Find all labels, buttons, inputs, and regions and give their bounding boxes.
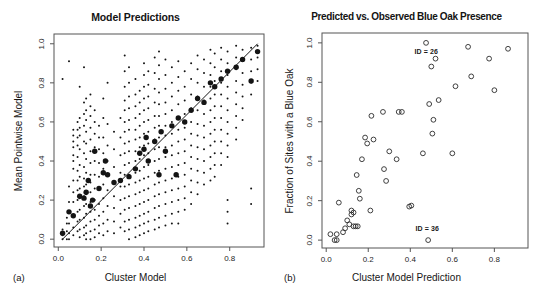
- panel-a-point-small: [143, 189, 145, 191]
- panel-a-point-small: [171, 133, 173, 135]
- panel-a-point-small: [197, 193, 199, 195]
- panel-a-point-small: [119, 199, 121, 201]
- panel-a-point-small: [227, 109, 229, 111]
- panel-a-point-small: [197, 158, 199, 160]
- panel-a-point-small: [164, 88, 166, 90]
- panel-a-letter: (a): [13, 272, 25, 283]
- panel-a-point-small: [113, 232, 115, 234]
- panel-b-point: [343, 226, 348, 231]
- panel-a-point-small: [197, 123, 199, 125]
- panel-a-xtick-label: 0.6: [181, 254, 192, 263]
- panel-a-point-small: [235, 56, 237, 58]
- panel-a-point-small: [214, 152, 216, 154]
- panel-a-point-small: [235, 80, 237, 82]
- panel-b-point: [387, 149, 392, 154]
- panel-a-point-small: [143, 133, 145, 135]
- panel-a-point-small: [154, 72, 156, 74]
- panel-a-point-small: [107, 230, 109, 232]
- panel-a-point-small: [68, 60, 70, 62]
- panel-b-ytick-label: 0.6: [305, 116, 314, 127]
- panel-a-point-small: [143, 97, 145, 99]
- panel-a-point-small: [128, 150, 130, 152]
- panel-a-point-small: [139, 180, 141, 182]
- panel-a-point-small: [143, 154, 145, 156]
- panel-a-point-small: [124, 70, 126, 72]
- panel-a-point-small: [203, 160, 205, 162]
- panel-a-point-small: [85, 142, 87, 144]
- panel-a-point-small: [77, 144, 79, 146]
- panel-a-point-small: [154, 115, 156, 117]
- panel-a-point-small: [128, 207, 130, 209]
- panel-b-yaxis-title: Fraction of Sites with a Blue Oak: [284, 68, 295, 213]
- panel-a-point-small: [143, 201, 145, 203]
- panel-a-point-small: [235, 115, 237, 117]
- panel-a-point-small: [85, 97, 87, 99]
- panel-a-point-small: [154, 88, 156, 90]
- panel-a-point-small: [134, 182, 136, 184]
- panel-a-point-small: [107, 123, 109, 125]
- panel-a-point-small: [134, 236, 136, 238]
- panel-a-point-small: [214, 94, 216, 96]
- panel-a-point-small: [128, 219, 130, 221]
- panel-a-point-small: [98, 176, 100, 178]
- panel-b-point: [356, 188, 361, 193]
- panel-a-point-small: [197, 135, 199, 137]
- panel-b-point: [466, 44, 471, 49]
- panel-a-point-small: [184, 209, 186, 211]
- panel-a-point-small: [164, 101, 166, 103]
- panel-a-point-small: [227, 121, 229, 123]
- panel-a-point-large: [146, 158, 151, 163]
- panel-a-point-small: [128, 228, 130, 230]
- panel-a-point-small: [128, 66, 130, 68]
- panel-a-point-large: [105, 172, 110, 177]
- panel-b-point: [453, 84, 458, 89]
- panel-a-point-small: [124, 152, 126, 154]
- panel-a-point-small: [257, 56, 259, 58]
- panel-a-point-small: [171, 201, 173, 203]
- panel-a-point-small: [257, 80, 259, 82]
- panel-a-point-small: [147, 107, 149, 109]
- panel-a-point-small: [171, 66, 173, 68]
- panel-a-point-small: [197, 68, 199, 70]
- panel-a-point-small: [83, 234, 85, 236]
- panel-b-point: [368, 208, 373, 213]
- panel-a-point-small: [184, 86, 186, 88]
- panel-a-point-small: [197, 55, 199, 57]
- panel-a-point-small: [94, 187, 96, 189]
- panel-a-point-small: [139, 215, 141, 217]
- panel-a-point-small: [102, 137, 104, 139]
- panel-a-point-small: [124, 221, 126, 223]
- panel-a-point-small: [98, 125, 100, 127]
- panel-b-ytick-label: 0.8: [305, 77, 314, 88]
- panel-a-point-small: [83, 140, 85, 142]
- panel-a-point-small: [171, 223, 173, 225]
- panel-a-point-large: [143, 135, 148, 140]
- panel-a-point-small: [171, 96, 173, 98]
- panel-a: Model Predictions Cluster Model Mean Poi…: [0, 0, 271, 299]
- panel-a-point-small: [143, 74, 145, 76]
- panel-a-point-small: [190, 191, 192, 193]
- panel-a-point-small: [220, 94, 222, 96]
- panel-a-point-large: [81, 195, 86, 200]
- panel-a-point-small: [171, 121, 173, 123]
- panel-a-point-small: [89, 94, 91, 96]
- panel-a-point-small: [143, 62, 145, 64]
- panel-a-point-small: [177, 223, 179, 225]
- panel-a-point-small: [72, 191, 74, 193]
- panel-a-point-small: [72, 180, 74, 182]
- panel-a-point-small: [164, 191, 166, 193]
- panel-a-point-small: [164, 225, 166, 227]
- panel-a-point-small: [79, 164, 81, 166]
- panel-a-point-large: [66, 209, 71, 214]
- panel-a-point-large: [96, 186, 101, 191]
- panel-a-point-small: [242, 84, 244, 86]
- panel-a-point-small: [94, 109, 96, 111]
- panel-a-point-small: [220, 47, 222, 49]
- panel-b-ytick-label: 0.4: [305, 156, 314, 167]
- panel-a-point-small: [203, 183, 205, 185]
- panel-a-point-small: [227, 51, 229, 53]
- panel-a-point-small: [235, 103, 237, 105]
- panel-a-point-small: [171, 213, 173, 215]
- panel-a-point-small: [143, 232, 145, 234]
- panel-a-point-small: [79, 176, 81, 178]
